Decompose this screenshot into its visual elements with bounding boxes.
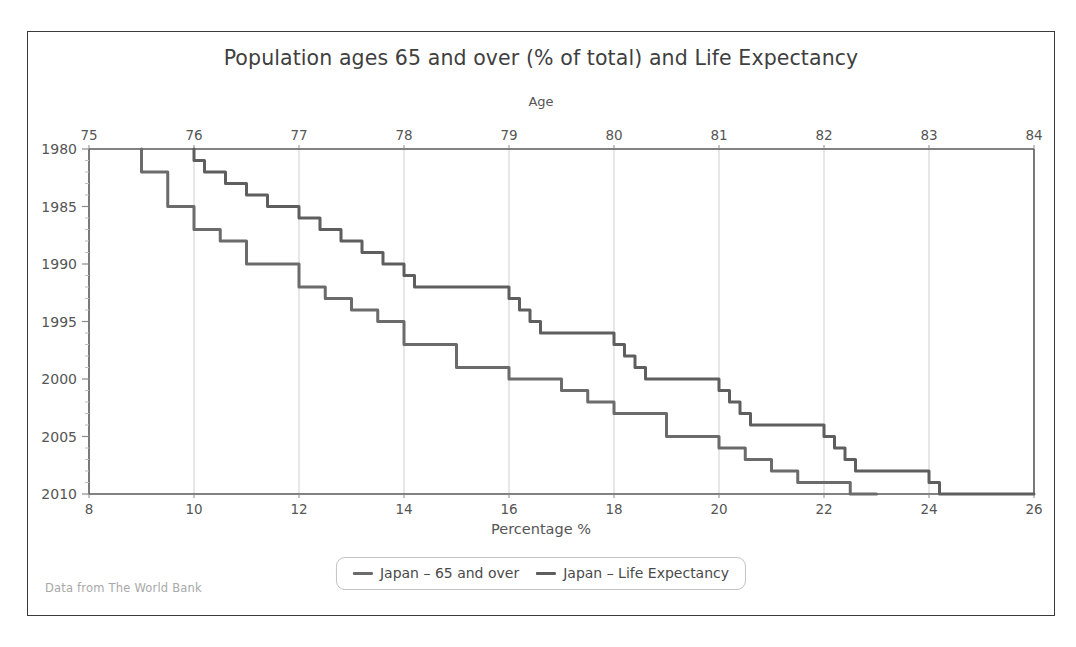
svg-text:83: 83 (920, 127, 937, 143)
svg-text:12: 12 (290, 501, 307, 517)
svg-text:2000: 2000 (41, 371, 77, 387)
svg-text:1990: 1990 (41, 256, 77, 272)
svg-text:2010: 2010 (41, 486, 77, 502)
svg-text:16: 16 (500, 501, 517, 517)
svg-text:1995: 1995 (41, 314, 77, 330)
svg-text:14: 14 (395, 501, 412, 517)
svg-text:75: 75 (80, 127, 97, 143)
svg-text:18: 18 (605, 501, 622, 517)
axis-ticks (82, 145, 1034, 498)
svg-text:24: 24 (920, 501, 937, 517)
legend-label: Japan – Life Expectancy (563, 565, 729, 581)
svg-text:1985: 1985 (41, 199, 77, 215)
svg-text:78: 78 (395, 127, 412, 143)
svg-text:79: 79 (500, 127, 517, 143)
svg-text:76: 76 (185, 127, 202, 143)
svg-text:20: 20 (710, 501, 727, 517)
data-source-note: Data from The World Bank (45, 581, 202, 595)
svg-text:82: 82 (815, 127, 832, 143)
data-series (142, 149, 1035, 494)
svg-text:2005: 2005 (41, 429, 77, 445)
svg-text:22: 22 (815, 501, 832, 517)
legend-item-65-and-over[interactable]: Japan – 65 and over (353, 565, 519, 581)
svg-text:1980: 1980 (41, 141, 77, 157)
svg-text:10: 10 (185, 501, 202, 517)
svg-text:77: 77 (290, 127, 307, 143)
legend-item-life-expectancy[interactable]: Japan – Life Expectancy (536, 565, 729, 581)
plot-frame (89, 149, 1034, 494)
legend-label: Japan – 65 and over (380, 565, 519, 581)
svg-text:81: 81 (710, 127, 727, 143)
svg-text:84: 84 (1025, 127, 1042, 143)
svg-text:26: 26 (1025, 501, 1042, 517)
svg-text:8: 8 (85, 501, 94, 517)
svg-text:80: 80 (605, 127, 622, 143)
gridlines (194, 149, 929, 494)
chart-figure: Population ages 65 and over (% of total)… (27, 31, 1055, 616)
bottom-axis-title: Percentage % (28, 521, 1054, 537)
legend-swatch-icon (353, 572, 373, 575)
legend-swatch-icon (536, 572, 556, 575)
chart-legend: Japan – 65 and over Japan – Life Expecta… (336, 557, 746, 590)
